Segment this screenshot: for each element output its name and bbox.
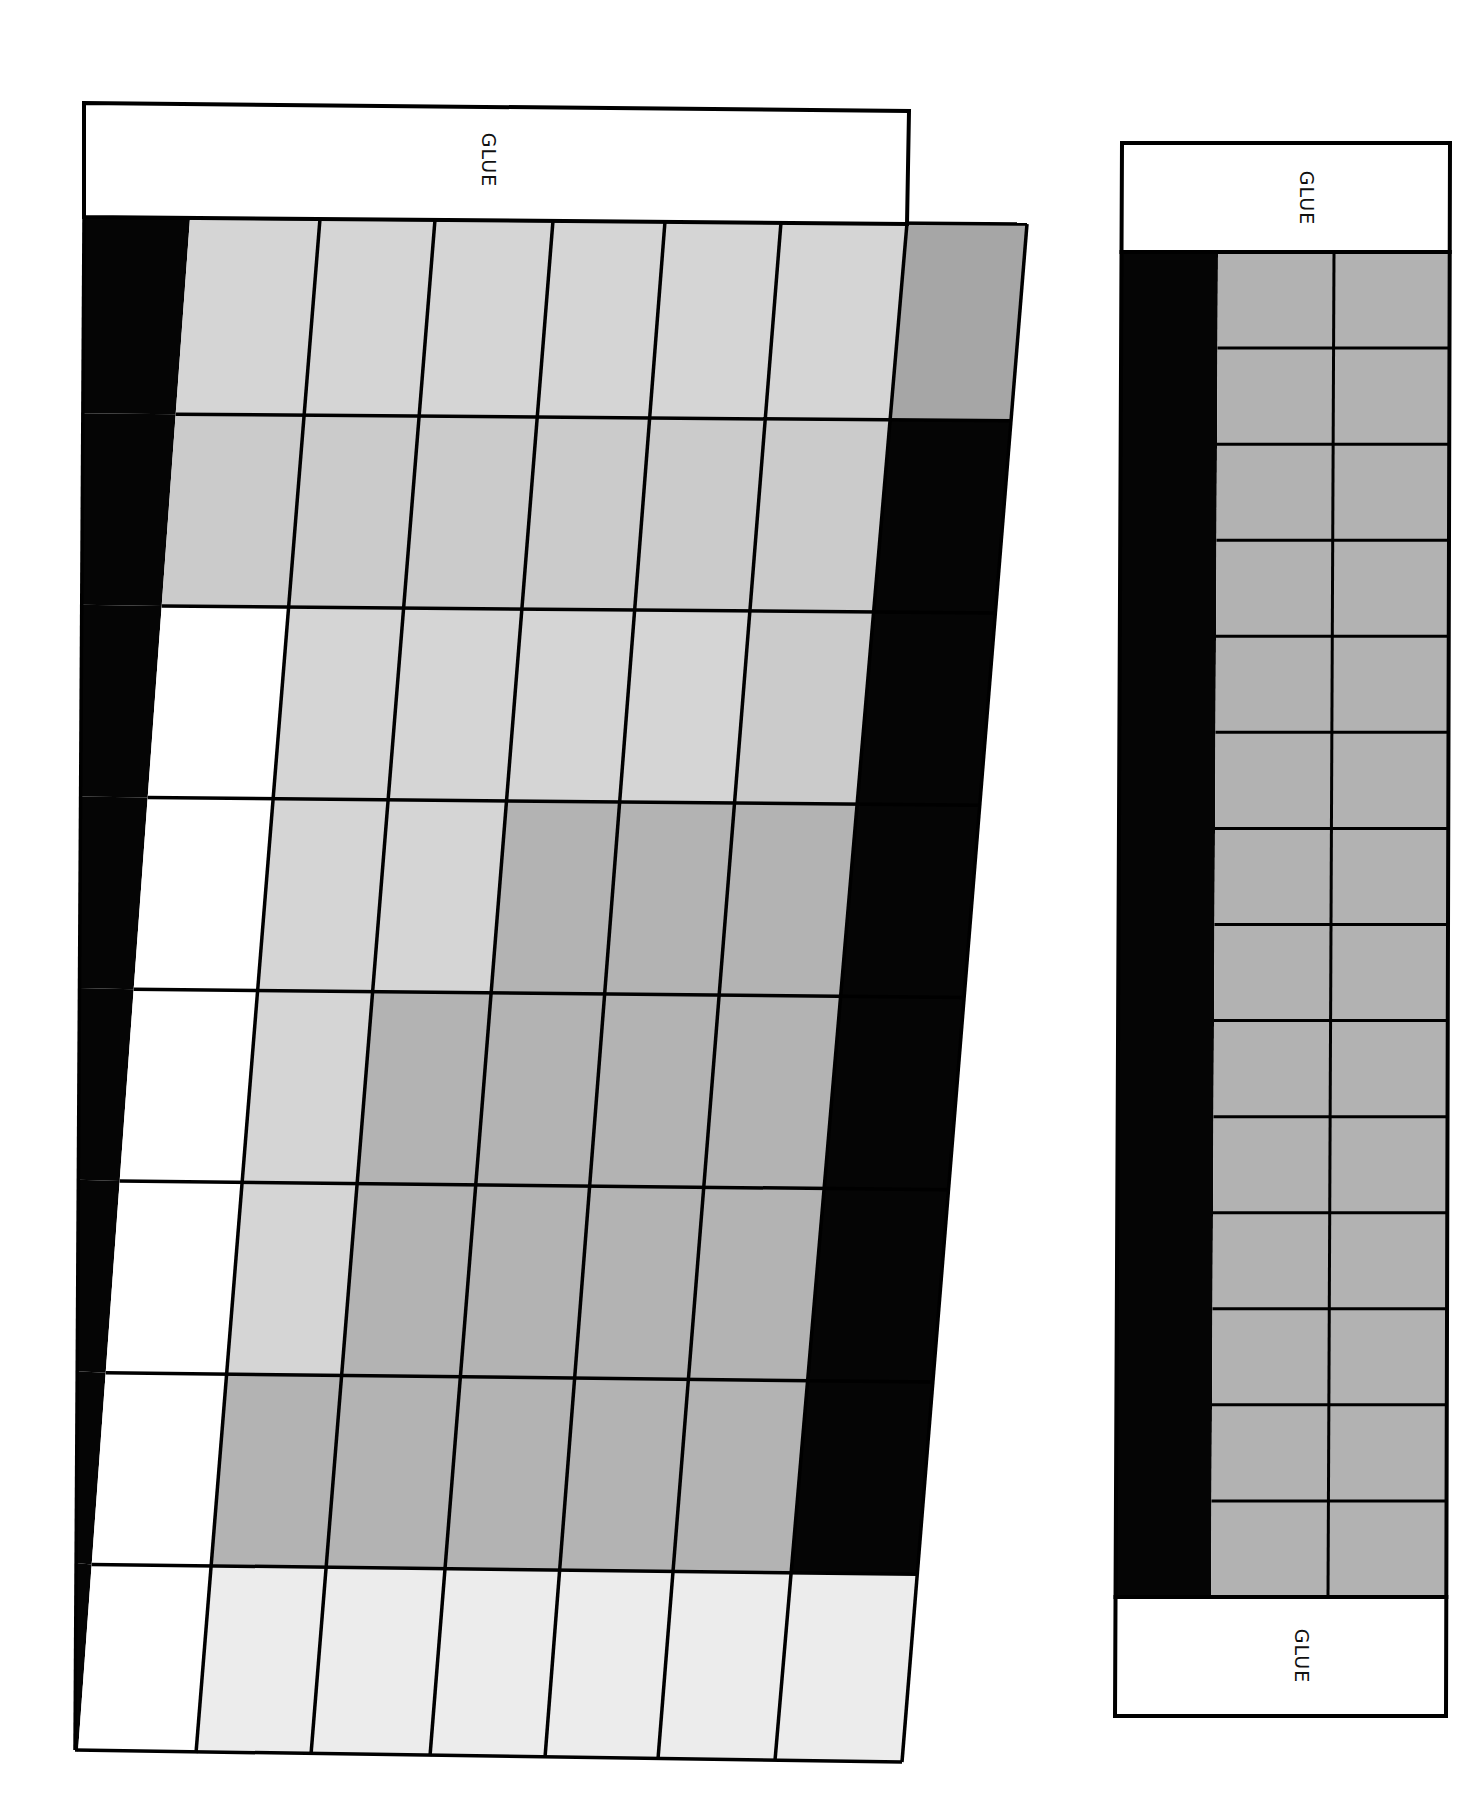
grid-cell xyxy=(688,1187,824,1380)
strip-top-glue-tab xyxy=(1122,143,1450,252)
grid-cell xyxy=(476,993,605,1186)
grid-cell xyxy=(148,606,289,799)
grid-cell xyxy=(162,414,304,607)
grid-cell xyxy=(545,1570,673,1759)
grid-cell xyxy=(857,612,995,805)
grid-cell xyxy=(874,420,1011,613)
grid-cell xyxy=(242,990,372,1183)
grid-cell xyxy=(176,218,320,415)
glue-label: GLUE xyxy=(478,133,500,187)
main-glue-tab: GLUE xyxy=(84,103,909,224)
grid-cell xyxy=(304,219,435,416)
grid-cell xyxy=(719,803,857,996)
grid-cell xyxy=(273,607,404,800)
grid-cell xyxy=(658,1572,791,1761)
grid-cell xyxy=(83,217,190,414)
grid-cell xyxy=(357,992,491,1185)
side-strip-piece: GLUE GLUE xyxy=(1115,143,1450,1716)
grid-cell xyxy=(460,1185,589,1378)
grid-cell xyxy=(808,1189,949,1383)
grid-cell xyxy=(81,605,162,798)
grid-cell xyxy=(673,1379,808,1573)
strip-bottom-glue-label: GLUE xyxy=(1291,1629,1313,1683)
grid-cell xyxy=(775,1573,917,1762)
grid-cell xyxy=(605,802,735,995)
grid-cell xyxy=(590,994,719,1187)
strip-black-column xyxy=(1116,252,1218,1597)
strip-bottom-glue-tab xyxy=(1115,1597,1446,1716)
grid-cell xyxy=(373,800,507,993)
grid-cell xyxy=(620,610,750,803)
grid-cell xyxy=(311,1567,445,1756)
grid-cell xyxy=(289,415,420,608)
grid-cell xyxy=(211,1374,341,1567)
grid-cell xyxy=(522,417,650,610)
grid-cell xyxy=(650,221,781,419)
grid-cell xyxy=(791,1381,933,1575)
grid-cell xyxy=(419,220,553,417)
grid-cell xyxy=(342,1184,476,1377)
grid-cell xyxy=(227,1182,357,1375)
grid-cell xyxy=(491,801,620,994)
grid-cell xyxy=(841,804,980,997)
grid-cell xyxy=(635,418,766,611)
grid-cell xyxy=(326,1375,460,1568)
grid-cell xyxy=(388,608,522,801)
grid-cell xyxy=(890,223,1027,421)
grid-cell xyxy=(78,1564,211,1753)
paper-craft-template: GLUE GLUE GLUE xyxy=(0,0,1480,1815)
grid-cell xyxy=(735,611,874,804)
grid-cell xyxy=(704,995,841,1188)
grid-cell xyxy=(92,1373,227,1566)
grid-cell xyxy=(750,419,890,612)
strip-top-glue-label: GLUE xyxy=(1296,171,1318,225)
grid-cell xyxy=(765,222,907,420)
grid-cell xyxy=(258,799,389,992)
strip-cells xyxy=(1116,252,1450,1597)
grid-cell xyxy=(430,1569,560,1758)
grid-cell xyxy=(82,413,176,606)
main-slanted-piece: GLUE xyxy=(75,103,1027,1762)
grid-cell xyxy=(560,1378,689,1571)
grid-cell xyxy=(106,1181,242,1374)
grid-cell xyxy=(196,1566,326,1755)
grid-cell xyxy=(507,609,635,802)
grid-cell xyxy=(824,996,964,1189)
grid-cell xyxy=(445,1377,575,1570)
grid-cell xyxy=(120,989,258,1182)
grid-cell xyxy=(537,221,665,418)
grid-cell xyxy=(134,798,273,991)
grid-cell xyxy=(404,416,538,609)
grid-cell xyxy=(575,1186,704,1379)
